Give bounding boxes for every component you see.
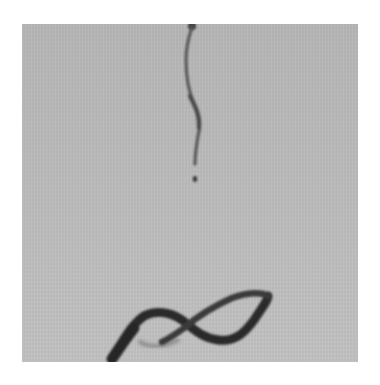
liquid-coil <box>112 293 268 359</box>
liquid-thread-figure <box>22 24 358 362</box>
photograph <box>22 24 358 362</box>
falling-thread <box>186 27 200 164</box>
droplet <box>193 176 197 182</box>
